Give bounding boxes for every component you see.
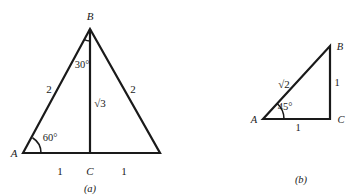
caption-b: (b) xyxy=(295,174,308,186)
vertex-label-A: A xyxy=(250,114,258,125)
caption-a: (a) xyxy=(84,183,97,195)
vertex-label-C: C xyxy=(337,114,345,125)
side-label-vertical: 1 xyxy=(334,77,339,88)
vertex-label-C: C xyxy=(86,165,94,177)
figure-b: B 1 √2 45° A C 1 (b) xyxy=(250,41,346,186)
vertex-label-B: B xyxy=(87,10,94,22)
hypotenuse-label: √2 xyxy=(278,78,290,90)
side-label-right: 2 xyxy=(130,83,136,95)
side-label-left: 2 xyxy=(46,83,52,95)
vertex-label-B: B xyxy=(337,41,344,52)
base-label-right: 1 xyxy=(121,165,127,177)
side-label-base: 1 xyxy=(295,122,300,133)
angle-arc-60 xyxy=(33,138,42,153)
base-label-left: 1 xyxy=(57,165,63,177)
diagram-canvas: B 30° 2 2 √3 60° A 1 C 1 (a) B 1 √2 45° … xyxy=(0,0,355,196)
angle-label-30: 30° xyxy=(75,59,90,70)
figure-a: B 30° 2 2 √3 60° A 1 C 1 (a) xyxy=(10,10,160,195)
angle-label-60: 60° xyxy=(43,132,58,143)
triangle-b-outline xyxy=(263,46,330,119)
angle-label-45: 45° xyxy=(278,101,293,112)
altitude-label: √3 xyxy=(94,97,106,109)
vertex-label-A: A xyxy=(10,147,18,159)
